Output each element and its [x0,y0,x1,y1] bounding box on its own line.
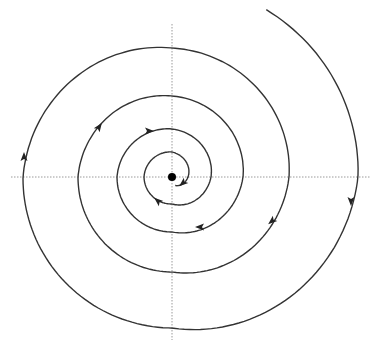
arrowhead-icon [145,128,154,135]
equilibrium-point [168,173,176,181]
direction-arrows [21,121,355,231]
spiral-phase-diagram [0,0,374,345]
spiral-trajectory [23,10,358,330]
